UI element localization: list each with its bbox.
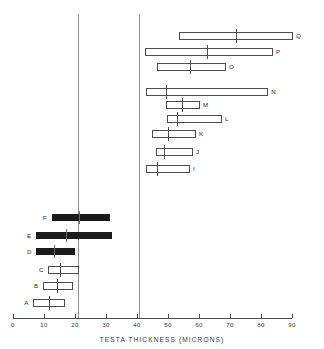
range-bar	[152, 130, 196, 138]
mean-marker	[236, 29, 237, 43]
range-bar	[52, 214, 110, 221]
x-tick-label: 30	[94, 321, 118, 328]
range-bar	[36, 248, 75, 255]
bar-label-n: N	[271, 88, 276, 95]
mean-marker	[166, 85, 167, 99]
x-tick-label: 50	[156, 321, 180, 328]
bar-label-j: J	[196, 148, 199, 155]
bar-label-p: P	[276, 48, 280, 55]
mean-marker	[57, 279, 58, 293]
x-tick-label: 90	[280, 321, 304, 328]
bar-label-e: E	[27, 232, 31, 239]
range-bar	[48, 266, 79, 274]
x-tick	[44, 314, 45, 318]
bar-label-f: F	[43, 214, 47, 221]
x-tick-label: 60	[187, 321, 211, 328]
x-tick-label: 70	[218, 321, 242, 328]
x-tick-label: 10	[32, 321, 56, 328]
range-bar	[157, 63, 226, 71]
range-bar	[146, 88, 268, 96]
x-axis-line	[13, 318, 292, 319]
range-bar	[146, 165, 190, 173]
x-tick-label: 20	[63, 321, 87, 328]
range-bar	[167, 115, 222, 123]
bar-label-a: A	[24, 299, 28, 306]
range-bar	[145, 48, 273, 56]
mean-marker	[157, 162, 158, 176]
reference-line-2	[139, 14, 140, 318]
mean-marker	[190, 60, 191, 74]
bar-label-i: I	[193, 165, 195, 172]
range-bar	[156, 148, 193, 156]
x-tick	[106, 314, 107, 318]
mean-marker	[207, 45, 208, 59]
bar-label-k: K	[199, 130, 203, 137]
x-tick-label: 0	[1, 321, 25, 328]
figure: QPONMLKJIFEDCBA 0102030405060708090 TEST…	[0, 0, 324, 349]
x-tick	[230, 314, 231, 318]
x-tick	[292, 314, 293, 318]
range-bar	[166, 101, 199, 109]
mean-marker	[66, 229, 67, 242]
plot-area: QPONMLKJIFEDCBA 0102030405060708090 TEST…	[0, 0, 324, 349]
x-tick	[137, 314, 138, 318]
x-tick	[168, 314, 169, 318]
mean-marker	[79, 211, 80, 224]
bar-label-b: B	[34, 282, 38, 289]
mean-marker	[182, 98, 183, 112]
x-axis-label: TESTA THICKNESS (MICRONS)	[0, 336, 324, 343]
range-bar	[36, 232, 112, 239]
bar-label-m: M	[203, 101, 208, 108]
bar-label-d: D	[27, 248, 32, 255]
x-tick	[261, 314, 262, 318]
x-tick-label: 40	[125, 321, 149, 328]
x-tick	[75, 314, 76, 318]
mean-marker	[168, 127, 169, 141]
bar-label-o: O	[229, 63, 234, 70]
bar-label-c: C	[39, 266, 44, 273]
mean-marker	[164, 145, 165, 159]
mean-marker	[49, 296, 50, 310]
mean-marker	[60, 263, 61, 277]
bar-label-l: L	[225, 115, 229, 122]
x-tick-label: 80	[249, 321, 273, 328]
mean-marker	[54, 245, 55, 258]
x-tick	[199, 314, 200, 318]
mean-marker	[177, 112, 178, 126]
range-bar	[43, 282, 73, 290]
bar-label-q: Q	[296, 32, 301, 39]
x-tick	[13, 314, 14, 318]
